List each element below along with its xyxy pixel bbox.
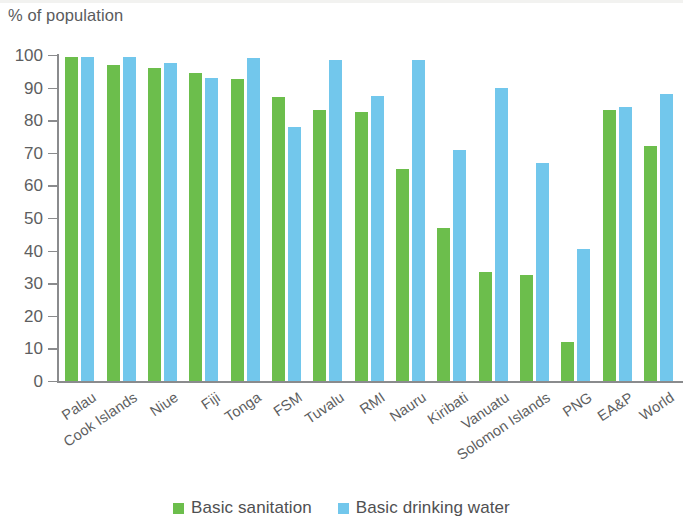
x-tick-label: RMI	[357, 389, 388, 417]
y-tick-mark	[48, 316, 57, 317]
y-tick-label: 70	[0, 145, 43, 162]
legend-label: Basic sanitation	[191, 498, 312, 518]
chart-legend: Basic sanitationBasic drinking water	[0, 498, 683, 518]
plot-area	[58, 55, 678, 381]
x-tick-label: EA&P	[595, 389, 636, 424]
legend-item: Basic sanitation	[173, 498, 312, 518]
bar-group	[479, 55, 508, 381]
legend-swatch-icon	[173, 503, 184, 514]
bar-sanitation	[479, 272, 492, 381]
bar-sanitation	[355, 112, 368, 381]
bar-group	[520, 55, 549, 381]
y-tick-mark	[48, 348, 57, 349]
y-tick-mark	[48, 218, 57, 219]
bar-drinking-water	[81, 57, 94, 381]
bar-group	[272, 55, 301, 381]
legend-item: Basic drinking water	[338, 498, 510, 518]
legend-swatch-icon	[338, 503, 349, 514]
y-tick-label: 80	[0, 112, 43, 129]
bar-sanitation	[561, 342, 574, 381]
y-axis-title: % of population	[8, 6, 123, 25]
bar-group	[355, 55, 384, 381]
bar-drinking-water	[288, 127, 301, 381]
bar-sanitation	[65, 57, 78, 381]
bar-group	[561, 55, 590, 381]
bar-group	[437, 55, 466, 381]
y-tick-label: 50	[0, 210, 43, 227]
page-edge-artifact	[0, 0, 683, 3]
y-tick-label: 60	[0, 177, 43, 194]
bar-drinking-water	[371, 96, 384, 381]
y-tick-label: 90	[0, 80, 43, 97]
bar-sanitation	[231, 79, 244, 381]
y-tick-label: 100	[0, 47, 43, 64]
x-tick-label: PNG	[559, 389, 594, 420]
y-tick-mark	[48, 251, 57, 252]
bar-drinking-water	[495, 88, 508, 381]
bar-sanitation	[313, 110, 326, 381]
bar-sanitation	[603, 110, 616, 381]
y-tick-mark	[48, 55, 57, 56]
x-axis-labels: PalauCook IslandsNiueFijiTongaFSMTuvaluR…	[58, 383, 683, 483]
bar-drinking-water	[660, 94, 673, 381]
x-tick-label: Tuvalu	[302, 389, 347, 427]
x-tick-label: Nauru	[387, 389, 429, 425]
x-tick-label: Tonga	[222, 389, 264, 425]
bar-group	[396, 55, 425, 381]
x-tick-label: Niue	[147, 389, 181, 419]
bar-sanitation	[437, 228, 450, 381]
y-tick-label: 10	[0, 340, 43, 357]
y-tick-mark	[48, 153, 57, 154]
x-tick-label: Fiji	[198, 389, 223, 413]
y-tick-mark	[48, 88, 57, 89]
bar-sanitation	[148, 68, 161, 381]
bar-sanitation	[396, 169, 409, 381]
bar-sanitation	[189, 73, 202, 381]
bar-drinking-water	[536, 163, 549, 381]
y-tick-mark	[48, 381, 57, 382]
bar-group	[603, 55, 632, 381]
bar-drinking-water	[577, 249, 590, 381]
bar-group	[313, 55, 342, 381]
y-tick-label: 30	[0, 275, 43, 292]
bar-drinking-water	[453, 150, 466, 381]
bar-group	[644, 55, 673, 381]
bar-drinking-water	[205, 78, 218, 381]
bar-group	[231, 55, 260, 381]
bar-group	[189, 55, 218, 381]
y-tick-mark	[48, 185, 57, 186]
y-tick-label: 0	[0, 373, 43, 390]
y-tick-mark	[48, 120, 57, 121]
y-tick-mark	[48, 283, 57, 284]
bar-sanitation	[520, 275, 533, 381]
bar-chart: % of population 0102030405060708090100 P…	[0, 0, 683, 528]
bar-drinking-water	[164, 63, 177, 381]
bar-drinking-water	[247, 58, 260, 381]
bar-sanitation	[107, 65, 120, 381]
y-tick-label: 40	[0, 243, 43, 260]
bar-group	[65, 55, 94, 381]
legend-label: Basic drinking water	[356, 498, 510, 518]
bar-drinking-water	[329, 60, 342, 381]
bar-drinking-water	[412, 60, 425, 381]
bar-sanitation	[272, 97, 285, 381]
bar-drinking-water	[123, 57, 136, 381]
bar-group	[107, 55, 136, 381]
bar-drinking-water	[619, 107, 632, 381]
bar-group	[148, 55, 177, 381]
y-tick-label: 20	[0, 308, 43, 325]
x-tick-label: FSM	[271, 389, 306, 420]
bar-sanitation	[644, 146, 657, 381]
x-tick-label: World	[637, 389, 678, 424]
